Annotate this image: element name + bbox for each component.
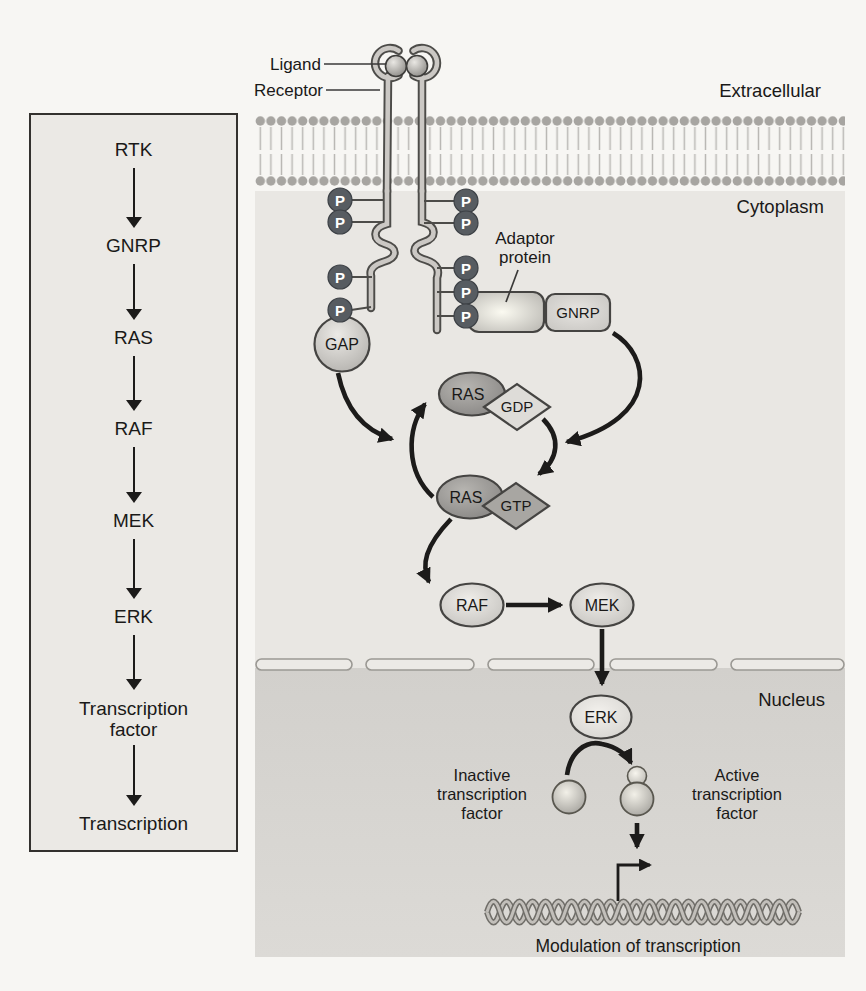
nuclear-envelope-segment — [256, 659, 352, 670]
nuclear-envelope-segment — [488, 659, 594, 670]
adaptor-label-line2: protein — [499, 248, 551, 267]
extracellular-label: Extracellular — [719, 80, 821, 101]
ras-gdp-label: RAS — [452, 386, 485, 403]
nuclear-envelope-segment — [731, 659, 844, 670]
active-tf-ball — [621, 783, 654, 816]
ligand-ball — [386, 56, 407, 77]
nuclear-envelope-segment — [366, 659, 474, 670]
erk-label: ERK — [585, 709, 618, 726]
nuclear-envelope — [256, 659, 844, 670]
mek-label: MEK — [585, 597, 620, 614]
cytoplasm-label: Cytoplasm — [737, 196, 824, 217]
inactive-tf-ball — [553, 781, 586, 814]
phosphate-icon: P — [454, 256, 478, 280]
phosphate-icon: P — [328, 210, 352, 234]
svg-text:transcription: transcription — [437, 785, 527, 803]
svg-text:P: P — [461, 215, 471, 232]
svg-text:P: P — [461, 308, 471, 325]
raf-label: RAF — [456, 597, 488, 614]
phosphate-icon: P — [454, 304, 478, 328]
ligand-label: Ligand — [270, 55, 321, 74]
phosphate-icon: P — [454, 280, 478, 304]
svg-text:P: P — [335, 214, 345, 231]
nucleus-label: Nucleus — [758, 689, 825, 710]
phosphate-icon: P — [454, 211, 478, 235]
svg-text:transcription: transcription — [692, 785, 782, 803]
svg-text:P: P — [335, 302, 345, 319]
signaling-diagram: GNRP GAP P P P P P P P P P RAS GDP RAS G… — [0, 0, 866, 991]
svg-text:factor: factor — [716, 804, 758, 822]
plasma-membrane — [255, 112, 845, 191]
receptor-label: Receptor — [254, 81, 323, 100]
svg-text:P: P — [335, 192, 345, 209]
ligand-ball — [407, 56, 428, 77]
svg-text:Inactive: Inactive — [454, 766, 511, 784]
svg-text:factor: factor — [461, 804, 503, 822]
gtp-label: GTP — [501, 497, 532, 514]
svg-text:P: P — [461, 193, 471, 210]
gnrp-box-label: GNRP — [556, 304, 599, 321]
adaptor-label-line1: Adaptor — [495, 229, 555, 248]
gdp-label: GDP — [501, 398, 534, 415]
dna-caption: Modulation of transcription — [535, 936, 740, 956]
svg-text:P: P — [335, 269, 345, 286]
svg-text:P: P — [461, 284, 471, 301]
ras-gtp-label: RAS — [450, 489, 483, 506]
phosphate-icon: P — [328, 298, 352, 322]
nuclear-envelope-segment — [610, 659, 717, 670]
adaptor-protein-box — [468, 292, 544, 332]
phosphate-icon: P — [454, 189, 478, 213]
phosphate-icon: P — [328, 188, 352, 212]
phosphate-icon: P — [328, 265, 352, 289]
gap-label: GAP — [325, 336, 359, 353]
svg-text:P: P — [461, 260, 471, 277]
svg-text:Active: Active — [715, 766, 760, 784]
